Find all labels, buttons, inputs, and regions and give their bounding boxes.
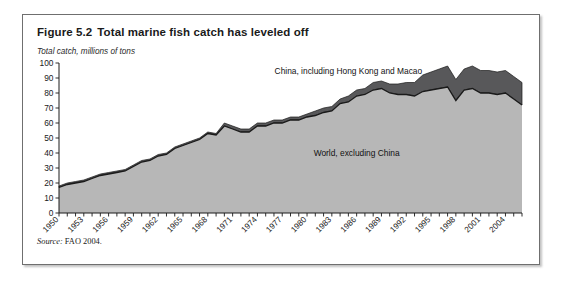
- y-tick-label: 10: [44, 193, 54, 203]
- y-tick-label: 70: [44, 103, 54, 113]
- x-tick-label: 1959: [116, 215, 136, 235]
- y-tick-label: 40: [44, 148, 54, 158]
- x-tick-label: 1968: [190, 215, 210, 235]
- world-series-label: World, excluding China: [314, 148, 400, 158]
- x-tick-label: 1986: [339, 215, 359, 235]
- source-value: FAO 2004.: [65, 237, 102, 246]
- area-chart-svg: 0102030405060708090100195019531956195919…: [23, 15, 541, 266]
- y-tick-label: 50: [44, 133, 54, 143]
- x-tick-label: 1977: [264, 215, 284, 235]
- source-label: Source:: [37, 237, 63, 246]
- figure-panel: Figure 5.2Total marine fish catch has le…: [22, 14, 540, 265]
- china-series-label: China, including Hong Kong and Macao: [275, 66, 423, 76]
- x-tick-label: 1983: [314, 215, 334, 235]
- x-tick-label: 1971: [215, 215, 235, 235]
- x-tick-label: 1965: [165, 215, 185, 235]
- x-tick-label: 1950: [41, 215, 61, 235]
- x-tick-label: 1953: [66, 215, 86, 235]
- x-tick-label: 1989: [364, 215, 384, 235]
- x-tick-label: 2001: [463, 215, 483, 235]
- world-area: [59, 87, 522, 213]
- y-tick-label: 80: [44, 88, 54, 98]
- y-tick-label: 100: [40, 58, 54, 68]
- source-note: Source: FAO 2004.: [37, 237, 102, 246]
- x-tick-label: 1962: [140, 215, 160, 235]
- x-tick-label: 1974: [240, 215, 260, 235]
- x-tick-label: 1998: [438, 215, 458, 235]
- x-tick-label: 1980: [289, 215, 309, 235]
- chart-plot: 0102030405060708090100195019531956195919…: [23, 15, 541, 266]
- y-tick-label: 90: [44, 73, 54, 83]
- x-tick-label: 1956: [91, 215, 111, 235]
- y-tick-label: 60: [44, 118, 54, 128]
- x-tick-label: 1992: [388, 215, 408, 235]
- x-tick-label: 2004: [488, 215, 508, 235]
- y-tick-label: 30: [44, 163, 54, 173]
- x-tick-label: 1995: [413, 215, 433, 235]
- y-tick-label: 20: [44, 178, 54, 188]
